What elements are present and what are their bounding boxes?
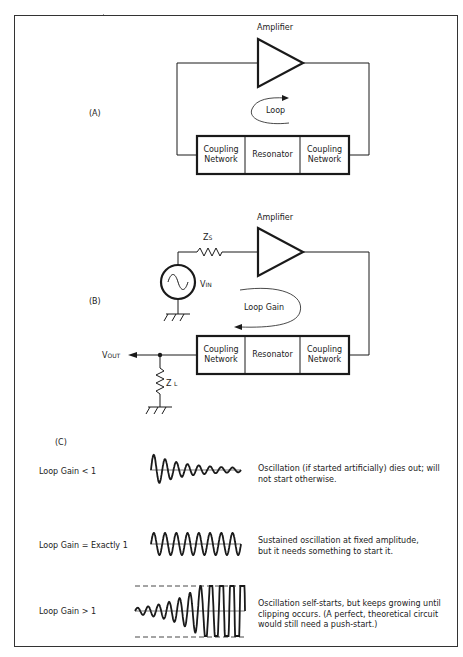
coupling-network-a-right: Coupling Network xyxy=(300,145,349,165)
panel-b-label: (B) xyxy=(89,297,101,307)
description-eq1: Sustained oscillation at fixed amplitude… xyxy=(258,536,433,557)
resistor-zs xyxy=(197,248,222,256)
zl-label: Z L xyxy=(166,379,177,389)
amplifier-a-triangle xyxy=(258,39,303,87)
amplifier-b-triangle xyxy=(258,228,303,276)
vin-label: VIN xyxy=(200,280,212,290)
ground-source xyxy=(164,314,190,321)
panel-a-label: (A) xyxy=(89,109,101,119)
resonator-b: Resonator xyxy=(245,350,300,360)
resonator-a: Resonator xyxy=(245,150,300,160)
coupling-network-a-left: Coupling Network xyxy=(197,145,245,165)
loop-label: Loop xyxy=(266,106,285,116)
resistor-zl xyxy=(156,368,164,394)
waveform-decaying xyxy=(151,455,241,483)
ground-load xyxy=(146,407,172,414)
diagram-canvas xyxy=(0,0,463,657)
panel-c-label: (C) xyxy=(55,438,67,448)
panel-b-circuit xyxy=(128,228,369,414)
vout-label: VOUT xyxy=(102,351,120,361)
amplifier-b-label: Amplifier xyxy=(257,213,293,223)
description-lt1: Oscillation (if started artificially) di… xyxy=(258,464,448,485)
condition-lt1: Loop Gain < 1 xyxy=(39,467,96,477)
description-gt1: Oscillation self-starts, but keeps growi… xyxy=(258,599,448,631)
condition-eq1: Loop Gain = Exactly 1 xyxy=(39,541,128,551)
condition-gt1: Loop Gain > 1 xyxy=(39,607,96,617)
amplifier-a-label: Amplifier xyxy=(257,23,293,33)
coupling-network-b-left: Coupling Network xyxy=(197,345,245,365)
coupling-network-b-right: Coupling Network xyxy=(300,345,349,365)
zs-label: ZS xyxy=(203,233,212,243)
sine-glyph xyxy=(168,275,188,290)
loop-gain-label: Loop Gain xyxy=(244,303,284,313)
waveforms xyxy=(135,455,246,637)
